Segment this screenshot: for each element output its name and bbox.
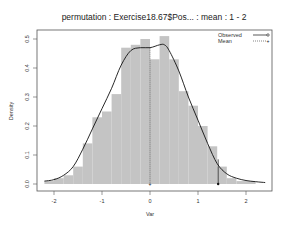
x-tick-label: 0 (148, 198, 151, 204)
y-tick-label: 0.5 (24, 35, 30, 43)
histogram-bar (198, 126, 208, 184)
chart-title: permutation : Exercise18.67$Pos... : mea… (62, 12, 247, 22)
histogram-bar (150, 59, 160, 184)
histogram-bar (208, 146, 218, 184)
histogram-bar (64, 175, 74, 184)
y-axis-label: Density (8, 102, 14, 121)
histogram-bar (169, 59, 179, 184)
histogram-bar (73, 167, 83, 184)
histogram-bar (112, 94, 122, 184)
histogram-bar (131, 45, 141, 184)
x-tick-label: 1 (196, 198, 199, 204)
y-tick-label: 0.4 (24, 64, 30, 72)
y-tick-label: 0.3 (24, 93, 30, 101)
histogram-chart: permutation : Exercise18.67$Pos... : mea… (0, 0, 288, 228)
observed-marker (217, 183, 219, 185)
histogram-bar (44, 181, 54, 184)
histogram-bar (83, 143, 93, 184)
histogram-bar (140, 39, 150, 184)
histogram-bar (92, 117, 102, 184)
legend: Observed Mean + (218, 32, 270, 44)
x-tick-label: -2 (52, 198, 57, 204)
x-tick-label: -1 (100, 198, 105, 204)
y-tick-label: 0.0 (24, 180, 30, 188)
y-tick-label: 0.1 (24, 151, 30, 159)
histogram-bar (227, 178, 237, 184)
histogram-bar (160, 36, 170, 184)
mean-marker: + (149, 181, 152, 187)
x-axis: -2-1012 (52, 191, 248, 204)
histogram-bar (179, 91, 189, 184)
y-axis: 0.00.10.20.30.40.5 (24, 35, 37, 188)
legend-observed-circle-icon (267, 34, 269, 36)
histogram-bar (121, 48, 131, 184)
legend-mean-label: Mean (218, 38, 232, 44)
x-tick-label: 2 (244, 198, 247, 204)
histogram-bar (236, 181, 246, 184)
x-axis-label: Var (146, 211, 154, 217)
histogram-bar (102, 112, 112, 185)
legend-mean-plus-icon: + (267, 38, 270, 44)
y-tick-label: 0.2 (24, 122, 30, 130)
